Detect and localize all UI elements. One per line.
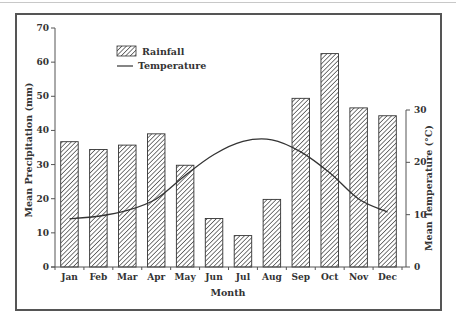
y-tick-label: 30	[36, 160, 49, 170]
x-tick-label: May	[175, 272, 197, 282]
x-tick-label: Jan	[60, 272, 78, 282]
bar-feb	[90, 150, 108, 267]
temperature-curve	[69, 139, 387, 219]
y-tick-label: 10	[36, 228, 49, 238]
legend-rainfall-label: Rainfall	[142, 46, 185, 57]
legend-rainfall-swatch	[117, 46, 136, 56]
y-tick-label: 70	[36, 23, 49, 33]
legend: Rainfall Temperature	[117, 46, 206, 71]
bar-dec	[379, 116, 397, 267]
x-tick-label: Nov	[349, 272, 369, 282]
y-axis-title: Mean Precipitation (mm)	[23, 83, 34, 218]
x-tick-label: Mar	[117, 272, 138, 282]
bar-nov	[350, 108, 368, 267]
y-tick-label: 50	[36, 91, 49, 101]
temperature-line	[69, 139, 387, 219]
x-tick-label: Apr	[146, 272, 165, 282]
y2-tick-label: 0	[414, 262, 420, 272]
x-tick-label: Jul	[235, 272, 251, 282]
bar-mar	[119, 145, 136, 267]
y2-tick-label: 30	[414, 105, 427, 115]
x-tick-label: Sep	[292, 272, 311, 282]
legend-temperature-label: Temperature	[138, 60, 206, 71]
bar-oct	[321, 54, 339, 267]
y-tick-label: 0	[43, 262, 49, 272]
bar-aug	[263, 199, 281, 267]
x-tick-label: Oct	[321, 272, 339, 282]
bar-jun	[205, 219, 223, 267]
bar-sep	[292, 98, 310, 267]
x-tick-label: Feb	[89, 272, 107, 282]
rainfall-bars	[61, 54, 397, 267]
y-tick-label: 60	[36, 57, 49, 67]
chart: 010203040506070JanFebMarAprMayJunJulAugS…	[0, 0, 456, 324]
bar-jan	[61, 142, 78, 267]
y2-axis-title: Mean Temperature (°C)	[423, 125, 434, 251]
bar-jul	[234, 236, 252, 267]
x-tick-label: Aug	[261, 272, 283, 282]
bar-apr	[147, 134, 165, 267]
x-axis-title: Month	[210, 287, 245, 298]
x-tick-label: Dec	[378, 272, 398, 282]
x-tick-label: Jun	[204, 272, 223, 282]
y-tick-label: 40	[36, 125, 49, 135]
y-tick-label: 20	[36, 194, 49, 204]
